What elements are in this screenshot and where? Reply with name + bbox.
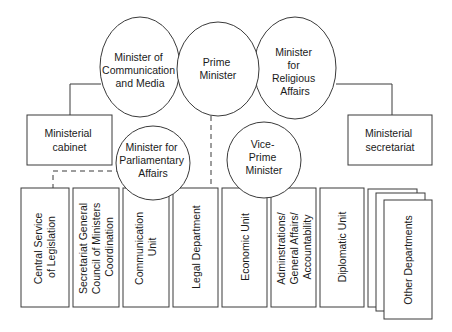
node-label-line: Minister <box>246 164 283 176</box>
node-label-line: Religious <box>272 72 315 84</box>
department-label-line: Coordination <box>103 217 115 277</box>
minister-religious-affairs-circle: Minister for Religious Affairs <box>254 17 336 119</box>
node-label-line: Prime <box>203 56 231 68</box>
svg-text:Economic Unit: Economic Unit <box>239 213 251 281</box>
node-label-line: Parliamentary <box>119 154 185 166</box>
department-boxes: Central Service of Legislation Secretari… <box>21 188 432 319</box>
node-label-line: Minister of <box>114 51 163 63</box>
svg-text:Prime Minister: Prime Minister <box>200 56 237 81</box>
node-label-line: Minister <box>275 46 312 58</box>
department-label-line: Economic Unit <box>239 213 251 281</box>
department-label-line: Legal Department <box>190 205 202 289</box>
svg-text:Vice- Prime Minist: Vice- Prime Minister <box>246 138 283 176</box>
department-label-line: Secretariat General <box>77 203 89 294</box>
department-label-line: General Affairs/ <box>288 212 300 284</box>
department-economic-unit: Economic Unit <box>222 188 267 307</box>
department-legal-department: Legal Department <box>173 188 218 307</box>
minister-parliamentary-affairs-circle: Minister for Parliamentary Affairs <box>116 126 190 200</box>
department-diplomatic-unit: Diplomatic Unit <box>320 188 364 307</box>
department-administrations-general-affairs: Adminstrations/ General Affairs/ Account… <box>271 188 316 307</box>
node-label-line: Affairs <box>138 167 168 179</box>
department-label-line: Central Service <box>32 212 44 284</box>
node-label-line: Ministerial <box>44 127 91 139</box>
department-label-line: Communication <box>133 212 145 285</box>
node-label-line: secretariat <box>365 141 414 153</box>
node-label-line: cabinet <box>53 141 87 153</box>
org-chart-diagram: Ministerial cabinet Ministerial secretar… <box>0 0 452 332</box>
department-label-line: Other Departments <box>402 215 414 304</box>
department-central-service-legislation: Central Service of Legislation <box>21 188 69 307</box>
minister-communication-media-circle: Minister of Communication and Media <box>100 17 180 117</box>
connector-communication-to-cabinet <box>70 84 101 115</box>
node-label-line: Minister <box>200 69 237 81</box>
node-label-line: and Media <box>115 77 164 89</box>
prime-minister-circle: Prime Minister <box>177 22 259 116</box>
node-label-line: Ministerial <box>365 127 412 139</box>
ministerial-cabinet-box: Ministerial cabinet <box>27 115 112 165</box>
svg-text:Legal Department: Legal Department <box>190 205 202 289</box>
department-label-line: Accountability <box>301 214 313 280</box>
node-label-line: Communication <box>102 64 175 76</box>
svg-text:Adminstrations/ Genera: Adminstrations/ General Affairs/ Account… <box>275 209 313 284</box>
department-label-line: Council of Ministers <box>90 203 102 295</box>
node-label-line: Minister for <box>126 141 178 153</box>
svg-text:Central Service of Leg: Central Service of Legislation <box>32 210 57 285</box>
department-label-line: Unit <box>146 238 158 257</box>
ministerial-secretariat-box: Ministerial secretariat <box>348 115 432 165</box>
node-label-line: Affairs <box>280 85 310 97</box>
department-communication-unit: Communication Unit <box>123 188 169 307</box>
department-label-line: Diplomatic Unit <box>336 212 348 283</box>
node-label-line: Prime <box>249 151 277 163</box>
department-secretariat-general-council: Secretariat General Council of Ministers… <box>73 188 119 307</box>
svg-text:Other Departments: Other Departments <box>402 215 414 304</box>
svg-text:Diplomatic Unit: Diplomatic Unit <box>336 212 348 283</box>
department-label-line: of Legislation <box>45 216 57 278</box>
connector-religious-to-secretariat <box>336 84 392 115</box>
department-label-line: Adminstrations/ <box>275 212 287 284</box>
department-other-departments: Other Departments <box>384 200 432 319</box>
vice-prime-minister-circle: Vice- Prime Minister <box>227 122 301 198</box>
connector-parliamentary-to-legislation <box>53 171 121 188</box>
node-label-line: for <box>287 59 300 71</box>
node-label-line: Vice- <box>251 138 275 150</box>
